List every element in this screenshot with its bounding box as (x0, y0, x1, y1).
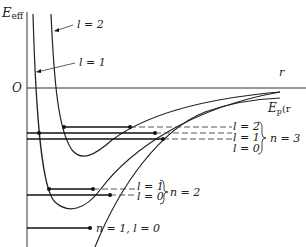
potential-label: Ep(r (267, 101, 291, 116)
r-axis-label: r (279, 66, 285, 79)
turning-point-dot (161, 137, 165, 141)
energy-level-diagram: Eeff O r Ep(r l = 2 l = 1 l = 2 l = 1 l … (0, 0, 306, 247)
l1-arrow-icon (36, 69, 41, 73)
origin-label: O (12, 81, 22, 95)
n1-label: n = 1, l = 0 (96, 222, 160, 235)
n3-group-label: n = 3 (270, 132, 300, 145)
l2-curve-label: l = 2 (77, 18, 104, 31)
l1-leader-line (37, 63, 75, 72)
turning-point-dot (153, 131, 157, 135)
turning-point-dot (91, 187, 95, 191)
turning-point-dot (62, 125, 66, 129)
y-axis-label: Eeff (1, 5, 24, 21)
turning-point-dot (47, 187, 51, 191)
diagram-canvas: Eeff O r Ep(r l = 2 l = 1 l = 2 l = 1 l … (0, 0, 306, 247)
n2-group-label: n = 2 (170, 186, 200, 199)
l1-curve-label: l = 1 (79, 56, 106, 69)
n3-l0-label: l = 0 (233, 142, 260, 155)
turning-point-dot (88, 226, 92, 230)
turning-point-dot (37, 131, 41, 135)
turning-point-dot (128, 125, 132, 129)
l2-arrow-icon (54, 28, 59, 32)
turning-point-dot (108, 193, 112, 197)
n2-l0-label: l = 0 (137, 190, 164, 203)
